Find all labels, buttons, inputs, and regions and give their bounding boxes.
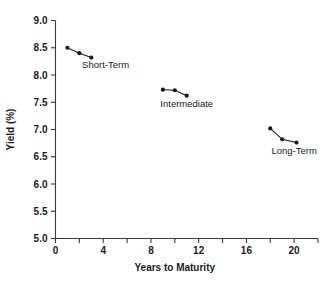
data-point[interactable] — [280, 137, 284, 141]
x-axis-group: 048121620 Years to Maturity — [53, 239, 318, 273]
x-tick-label: 12 — [193, 245, 205, 256]
x-tick-label: 16 — [241, 245, 253, 256]
x-axis-title: Years to Maturity — [134, 262, 215, 273]
y-axis-group: 5.05.56.06.57.07.58.08.59.0 Yield (%) — [5, 15, 56, 244]
chart-canvas: 5.05.56.06.57.07.58.08.59.0 Yield (%) 04… — [0, 0, 329, 281]
y-tick-label: 5.5 — [34, 206, 48, 217]
x-tick-label: 4 — [100, 245, 106, 256]
series-label-intermediate: Intermediate — [160, 98, 213, 109]
y-axis-ticks — [51, 21, 56, 239]
x-axis-tick-labels: 048121620 — [53, 245, 300, 256]
data-point[interactable] — [65, 46, 69, 50]
y-tick-label: 7.0 — [34, 124, 48, 135]
series-1 — [65, 46, 93, 60]
y-tick-label: 5.0 — [34, 233, 48, 244]
x-tick-label: 20 — [289, 245, 301, 256]
y-tick-label: 9.0 — [34, 15, 48, 26]
series-annotation-labels: Short-TermIntermediateLong-Term — [82, 59, 317, 156]
yield-curve-chart: 5.05.56.06.57.07.58.08.59.0 Yield (%) 04… — [0, 0, 329, 281]
series-label-short-term: Short-Term — [82, 59, 129, 70]
x-axis-ticks — [56, 239, 319, 244]
y-tick-label: 8.0 — [34, 70, 48, 81]
data-point[interactable] — [77, 51, 81, 55]
y-tick-label: 6.0 — [34, 179, 48, 190]
y-axis-title: Yield (%) — [5, 109, 16, 151]
y-tick-label: 7.5 — [34, 97, 48, 108]
data-point[interactable] — [268, 126, 272, 130]
data-point[interactable] — [161, 88, 165, 92]
series-3 — [268, 126, 298, 144]
series-label-long-term: Long-Term — [271, 145, 316, 156]
data-point[interactable] — [173, 88, 177, 92]
y-tick-label: 6.5 — [34, 151, 48, 162]
series-2 — [161, 88, 189, 98]
x-tick-label: 0 — [53, 245, 59, 256]
y-axis-tick-labels: 5.05.56.06.57.07.58.08.59.0 — [34, 15, 48, 244]
y-tick-label: 8.5 — [34, 42, 48, 53]
x-tick-label: 8 — [148, 245, 154, 256]
